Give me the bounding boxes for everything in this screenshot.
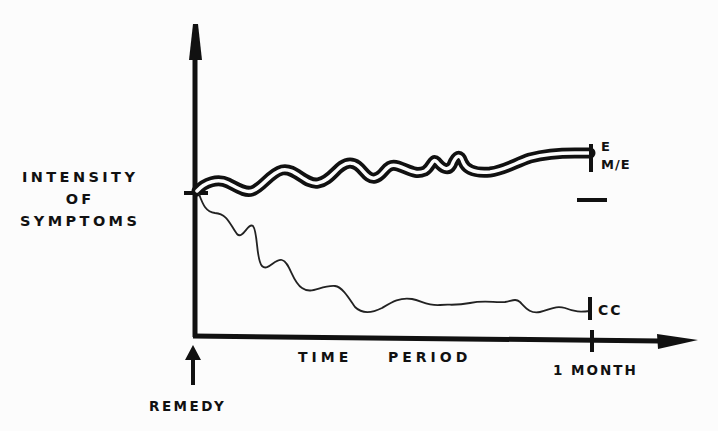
remedy-arrowhead (185, 345, 201, 360)
x-axis-label-period: PERIOD (388, 350, 471, 364)
cc-label: CC (598, 303, 623, 317)
y-label-line3: SYMPTOMS (20, 210, 140, 232)
series-e-me-line (197, 153, 590, 191)
y-label-line2: OF (20, 188, 140, 210)
y-axis-arrowhead (189, 24, 202, 60)
one-month-label: 1 MONTH (553, 364, 638, 378)
series-cc-line (199, 194, 590, 312)
me-label: M/E (601, 158, 631, 171)
e-label: E (601, 140, 611, 153)
y-axis-label: INTENSITY OF SYMPTOMS (20, 166, 140, 232)
y-label-line1: INTENSITY (20, 166, 140, 188)
x-axis-arrowhead (657, 334, 698, 349)
remedy-label: REMEDY (149, 400, 226, 414)
x-axis (193, 336, 660, 341)
x-axis-label-time: TIME (298, 350, 352, 364)
